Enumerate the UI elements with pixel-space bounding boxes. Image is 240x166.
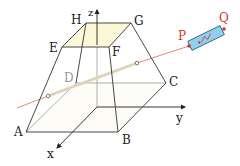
label-F: F: [112, 45, 120, 59]
label-x-axis: x: [47, 147, 54, 161]
laser-device: [188, 26, 225, 51]
label-B: B: [122, 133, 131, 147]
beam-exit-point: [135, 61, 139, 65]
label-z-axis: z: [88, 7, 93, 18]
label-y-axis: y: [175, 111, 183, 125]
frustum-laser-diagram: A B C D E F G H z y x P Q: [0, 0, 240, 166]
point-Q: [222, 27, 226, 31]
label-Q: Q: [219, 11, 229, 25]
label-H: H: [71, 13, 81, 27]
label-C: C: [169, 75, 178, 89]
laser-beam-entry: [17, 96, 48, 108]
label-P: P: [178, 29, 186, 43]
laser-beam-exit: [137, 46, 189, 63]
label-A: A: [13, 125, 23, 139]
label-D: D: [64, 71, 74, 85]
label-E: E: [49, 41, 58, 55]
point-P: [187, 44, 191, 48]
beam-entry-point: [46, 94, 50, 98]
label-G: G: [134, 14, 144, 28]
